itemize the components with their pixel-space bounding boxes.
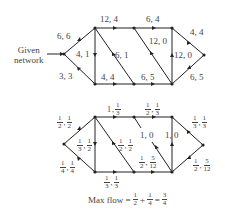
bottom-edge-label-c-e: 12,13 <box>145 102 160 117</box>
arrow-icon <box>113 82 117 86</box>
arrow-icon <box>151 82 155 86</box>
bottom-edge-label-a-b: 13,12 <box>77 138 92 153</box>
bottom-edge-label-c-f: 1, 0 <box>140 131 154 140</box>
bottom-edge-label-b-d: 13,13 <box>104 175 119 190</box>
equals-sign: = <box>155 195 160 205</box>
bottom-edge-label-f-e: 1, 0 <box>165 131 179 140</box>
top-edge-label-f-t: 6, 5 <box>190 73 204 82</box>
max-flow-equation: Max flow = 12 + 14 = 34 <box>88 192 167 207</box>
bottom-edge-label-s-b: 14,14 <box>60 160 75 175</box>
arrow-icon <box>77 37 81 41</box>
top-edge-label-a-d: 6, 1 <box>115 51 129 60</box>
max-flow-term-2: 14 <box>147 192 153 207</box>
bottom-edge-label-a-c: 1,13 <box>107 102 121 117</box>
arrow-icon <box>113 26 117 30</box>
bottom-edge-label-s-a: 12,12 <box>57 115 72 130</box>
bottom-edge-label-f-t: 12,512 <box>193 158 212 173</box>
top-edge-label-d-f: 6, 5 <box>141 73 155 82</box>
top-edge-label-c-e: 6, 4 <box>146 15 160 24</box>
top-edge-label-a-b: 4, 1 <box>76 50 90 59</box>
max-flow-result: 34 <box>162 192 168 207</box>
arrow-icon <box>93 53 97 57</box>
top-edge-label-c-f: 12, 0 <box>149 37 167 46</box>
top-edge-label-f-e: 12, 0 <box>174 51 192 60</box>
given-label-line2: network <box>14 55 44 65</box>
top-edge-label-e-t: 4, 4 <box>190 28 204 37</box>
arrow-icon <box>187 41 191 45</box>
given-label-line1: Given <box>14 45 44 55</box>
arrow-icon <box>152 26 156 30</box>
top-edge-label-b-d: 4, 4 <box>101 73 115 82</box>
max-flow-prefix: Max flow = <box>88 195 131 205</box>
max-flow-term-1: 12 <box>133 192 139 207</box>
plus-sign: + <box>140 195 145 205</box>
bottom-edge-label-d-f: 12,512 <box>139 155 158 170</box>
bottom-arrowheads <box>77 115 191 174</box>
bottom-edge-label-e-t: 13,13 <box>192 115 207 130</box>
given-network-label: Given network <box>14 45 44 65</box>
arrow-icon <box>187 65 191 69</box>
arrow-icon <box>150 51 154 55</box>
top-edge-label-s-a: 6, 6 <box>57 32 71 41</box>
bottom-edge-label-a-d: 12,12 <box>118 138 133 153</box>
top-edge-label-s-b: 3, 3 <box>59 72 73 81</box>
top-edge-label-a-c: 12, 4 <box>100 15 118 24</box>
